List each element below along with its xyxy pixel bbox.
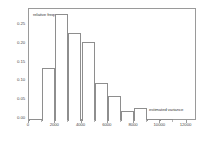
x-axis-tick-label: 2000	[50, 123, 59, 127]
histogram-bar	[108, 96, 121, 121]
histogram-bar	[95, 83, 108, 121]
y-axis-tick-label: 0.25	[3, 22, 25, 26]
x-axis-minor-tick-mark	[41, 120, 42, 122]
x-axis-tick-label: 8000	[128, 123, 137, 127]
histogram-bar	[82, 42, 95, 121]
y-axis-tick-label: 0.10	[3, 78, 25, 82]
x-axis-tick-label: 4000	[76, 123, 85, 127]
x-axis-minor-tick-mark	[172, 120, 173, 122]
y-axis-tick-label: 0.20	[3, 41, 25, 45]
x-axis-minor-tick-mark	[146, 120, 147, 122]
chart-figure: 0.25 0.20 0.15 0.10 0.05 0.00 relative f…	[0, 0, 205, 145]
y-axis-tick-label: 0.05	[3, 97, 25, 101]
x-axis-minor-tick-mark	[94, 120, 95, 122]
y-axis-tick-label: 0.00	[3, 116, 25, 120]
histogram-bar	[42, 68, 55, 121]
histogram-bar	[134, 108, 147, 121]
estimated-variance-label: estimated variance	[149, 107, 183, 112]
x-axis-tick-label: 6000	[102, 123, 111, 127]
histogram-bar	[55, 14, 68, 121]
histogram-bar	[68, 33, 81, 122]
x-axis-tick-label: 10000	[154, 123, 165, 127]
x-axis-minor-tick-mark	[120, 120, 121, 122]
x-axis-tick-label: 12000	[180, 123, 191, 127]
x-axis-tick-label: 0	[27, 123, 29, 127]
histogram-bar	[147, 119, 160, 121]
x-axis-minor-tick-mark	[67, 120, 68, 122]
plot-area: relative frequency estimated variance	[28, 8, 196, 120]
y-axis-tick-label: 0.15	[3, 60, 25, 64]
